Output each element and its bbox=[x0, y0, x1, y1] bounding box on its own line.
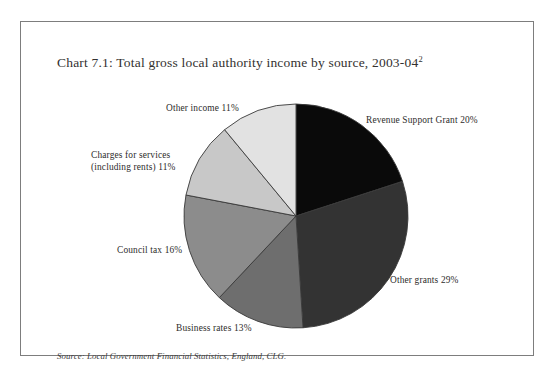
pie-slice-label-other-income: Other income 11% bbox=[166, 102, 239, 114]
pie-slice-label-business-rates: Business rates 13% bbox=[176, 322, 252, 334]
pie-chart bbox=[183, 103, 409, 329]
pie-slice-label-other-grants: Other grants 29% bbox=[390, 274, 459, 286]
pie-slice-label-charges-for-services: Charges for services (including rents) 1… bbox=[91, 149, 176, 174]
pie-slice-label-council-tax: Council tax 16% bbox=[117, 244, 182, 256]
chart-title-footnote-marker: 2 bbox=[418, 54, 422, 64]
chart-title-text: Chart 7.1: Total gross local authority i… bbox=[57, 55, 418, 70]
chart-page: Chart 7.1: Total gross local authority i… bbox=[0, 0, 549, 376]
charges-label-line-2: (including rents) 11% bbox=[91, 161, 176, 173]
chart-frame: Chart 7.1: Total gross local authority i… bbox=[20, 21, 534, 356]
page-title: Chart 7.1: Total gross local authority i… bbox=[57, 55, 423, 71]
pie-chart-svg bbox=[183, 103, 409, 329]
source-note: Source: Local Government Financial Stati… bbox=[57, 351, 286, 361]
pie-slice-label-revenue-support-grant: Revenue Support Grant 20% bbox=[366, 114, 478, 126]
charges-label-line-1: Charges for services bbox=[91, 149, 176, 161]
